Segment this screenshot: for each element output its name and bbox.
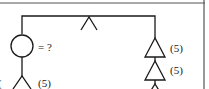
right-gate-2-label: (5) [170,64,183,77]
top-connector [22,16,155,38]
right-gate-3-triangle-icon [150,84,160,89]
right-gate-2-triangle-icon [145,61,165,80]
diagram-canvas: = ? (5) ( (5) (5) [0,0,209,89]
left-gate-caret-icon [13,76,31,89]
right-gate-1-label: (5) [170,42,183,55]
left-gate-label: (5) [38,77,51,89]
unknown-event-circle [11,35,33,57]
left-edge-label: ( [0,77,2,89]
right-gate-1-triangle-icon [145,38,165,57]
unknown-event-label: = ? [38,41,52,53]
top-gate-caret-icon [81,17,97,30]
